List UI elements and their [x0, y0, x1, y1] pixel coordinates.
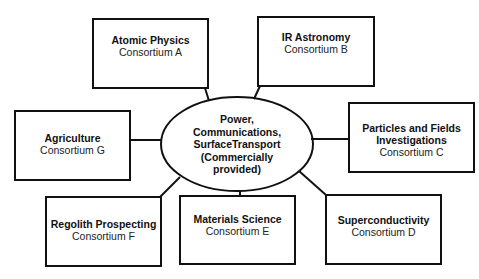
node-regolith-prospecting: Regolith Prospecting Consortium F	[45, 196, 162, 267]
node-subtitle: Consortium A	[119, 46, 182, 58]
node-agriculture: Agriculture Consortium G	[14, 110, 131, 181]
node-subtitle: Consortium D	[351, 226, 415, 238]
node-title: Materials Science	[193, 213, 281, 225]
node-materials-science: Materials Science Consortium E	[179, 195, 296, 265]
hub-node-infrastructure: Power, Communications, SurfaceTransport …	[161, 97, 313, 192]
hub-line: Power,	[220, 113, 254, 126]
node-subtitle: Consortium G	[40, 144, 105, 156]
hub-line: (Commercially	[201, 151, 273, 164]
node-title: Atomic Physics	[111, 34, 189, 46]
node-title: Superconductivity	[338, 214, 430, 226]
node-ir-astronomy: IR Astronomy Consortium B	[257, 16, 375, 87]
node-particles-fields: Particles and Fields Investigations Cons…	[348, 102, 475, 173]
hub-line: SurfaceTransport	[194, 138, 281, 151]
node-atomic-physics: Atomic Physics Consortium A	[92, 18, 209, 89]
hub-line: Communications,	[193, 126, 281, 139]
node-title: Particles and Fields Investigations	[356, 122, 468, 146]
node-subtitle: Consortium F	[72, 230, 135, 242]
node-title: Regolith Prospecting	[51, 218, 157, 230]
node-subtitle: Consortium B	[284, 43, 348, 55]
hub-line: provided)	[213, 163, 261, 176]
node-title: IR Astronomy	[282, 31, 350, 43]
node-title: Agriculture	[44, 132, 100, 144]
node-superconductivity: Superconductivity Consortium D	[325, 194, 442, 265]
node-subtitle: Consortium E	[206, 225, 270, 237]
node-subtitle: Consortium C	[379, 146, 443, 158]
